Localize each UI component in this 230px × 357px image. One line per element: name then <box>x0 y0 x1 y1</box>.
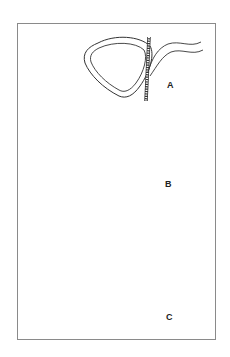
panel-label-a: A <box>167 81 174 90</box>
panel-label-b: B <box>165 180 172 189</box>
panel-a-drawing <box>84 37 203 101</box>
panel-label-c: C <box>166 313 173 322</box>
suture-diagram <box>0 0 230 357</box>
